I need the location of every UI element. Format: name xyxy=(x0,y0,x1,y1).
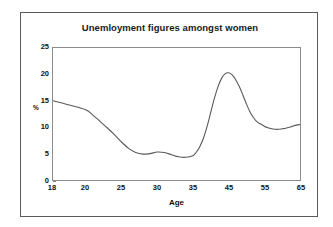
y-axis-label: % xyxy=(33,105,39,112)
x-tick-label: 30 xyxy=(153,184,161,192)
x-tick-label: 35 xyxy=(189,184,197,192)
x-tick-label: 55 xyxy=(261,184,269,192)
x-tick-label: 65 xyxy=(297,184,305,192)
plot-area xyxy=(52,47,301,181)
chart-plot-svg xyxy=(53,48,300,180)
x-tick-label: 20 xyxy=(81,184,89,192)
y-tick-label: 10 xyxy=(27,123,49,131)
y-tick-mark xyxy=(53,181,56,182)
y-tick-label: 15 xyxy=(27,97,49,105)
x-axis-tick-labels: 1820253035455565 xyxy=(52,184,301,196)
x-tick-label: 45 xyxy=(225,184,233,192)
y-tick-label: 20 xyxy=(27,70,49,78)
x-tick-label: 18 xyxy=(48,184,56,192)
y-tick-label: 5 xyxy=(27,150,49,158)
y-axis-tick-labels: 2520151050 xyxy=(24,47,49,181)
chart-title: Unemloyment figures amongst women xyxy=(21,22,319,33)
chart-outer-frame: Unemloyment figures amongst women 252015… xyxy=(20,12,318,217)
x-tick-label: 25 xyxy=(117,184,125,192)
y-tick-label: 0 xyxy=(27,177,49,185)
chart-figure: Unemloyment figures amongst women 252015… xyxy=(0,0,333,227)
y-tick-label: 25 xyxy=(27,43,49,51)
data-series-line xyxy=(53,73,300,158)
x-axis-label: Age xyxy=(52,198,301,207)
